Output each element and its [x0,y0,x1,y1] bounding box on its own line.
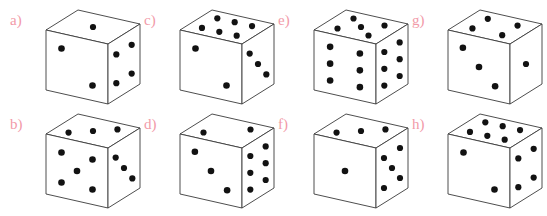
die-a: a) [0,0,134,104]
die-a-left-pip-1 [58,45,65,52]
die-e: e) [268,0,402,104]
die-b-top-pip-2 [90,128,96,134]
die-h-right-pip-4 [531,175,537,181]
die-b-label: b) [10,116,23,133]
die-e-right-pip-1 [381,49,387,55]
die-f-label: f) [278,116,288,133]
die-a-left-pip-2 [89,82,96,89]
die-c-right-pip-1 [247,51,253,57]
die-e-left-pip-5 [327,77,334,84]
die-f-top-pip-2 [358,128,364,134]
die-c-top-pip-4 [232,19,238,25]
die-g-top-pip-4 [514,22,520,28]
die-h-top-pip-3 [484,133,490,139]
die-e-top-pip-2 [350,15,356,21]
die-e-top-pip-5 [381,22,387,28]
die-c: c) [134,0,268,104]
die-g-top-pip-3 [499,32,505,38]
die-h: h) [402,104,536,208]
die-h-top-pip-4 [500,123,506,129]
die-h-label: h) [412,116,425,133]
die-f-right-pip-3 [389,165,395,171]
die-a-top-pip-1 [90,24,96,30]
die-e-right-pip-3 [381,66,387,72]
die-g-top-pip-1 [469,25,475,31]
die-b-right-pip-1 [113,155,119,161]
die-h-cube [434,108,547,216]
die-g-left-pip-1 [460,44,467,51]
die-c-left-pip-2 [223,82,230,89]
die-h-left-pip-1 [460,149,467,156]
die-d: d) [134,104,268,208]
die-d-label: d) [144,116,157,133]
die-g-label: g) [412,12,425,29]
die-d-left-pip-3 [224,187,231,194]
die-d-top-pip-2 [247,126,253,132]
die-h-top-pip-6 [517,127,523,133]
die-e-left-pip-6 [357,84,364,91]
die-c-left-pip-1 [192,45,199,52]
die-f-right-pip-1 [381,155,387,161]
die-e-left-pip-1 [327,44,334,51]
die-d-right-pip-5 [247,187,253,193]
die-b-left-pip-5 [89,186,96,193]
die-h-top-pip-5 [502,137,508,143]
die-g-right-pip-1 [523,61,529,67]
die-f-top-pip-1 [333,129,339,135]
die-b-left-pip-2 [89,156,96,163]
die-e-left-pip-3 [327,60,334,67]
die-h-right-pip-3 [515,184,521,190]
die-g-cube [434,4,547,112]
die-d-right-pip-1 [247,153,253,159]
die-e-top-pip-3 [358,24,364,30]
die-h-top-pip-2 [482,119,488,125]
die-h-left-pip-2 [491,186,498,193]
die-e-left-pip-2 [357,50,364,57]
die-f-top-pip-3 [382,126,388,132]
die-g-left-pip-2 [476,64,483,71]
die-h-right-pip-1 [515,155,521,161]
die-b-left-pip-4 [58,179,65,186]
die-b: b) [0,104,134,208]
die-f-right-pip-4 [381,185,387,191]
die-a-label: a) [10,12,22,29]
die-a-right-pip-1 [113,51,119,57]
die-c-top-pip-6 [249,23,255,29]
die-d-left-pip-1 [192,148,199,155]
die-c-top-pip-3 [216,29,222,35]
die-b-right-pip-2 [121,165,127,171]
die-g: g) [402,0,536,104]
die-f: f) [268,104,402,208]
die-c-top-pip-5 [234,33,240,39]
die-b-top-pip-1 [65,129,71,135]
die-g-top-pip-2 [485,16,491,22]
die-c-top-pip-1 [199,25,205,31]
die-c-top-pip-2 [214,15,220,21]
die-h-top-pip-1 [467,129,473,135]
die-b-left-pip-3 [74,168,81,175]
die-d-right-pip-3 [247,170,253,176]
die-d-top-pip-1 [200,129,206,135]
die-h-right-pip-2 [531,146,537,152]
die-e-right-pip-5 [381,83,387,89]
die-a-right-pip-3 [113,80,119,86]
die-e-top-pip-1 [334,25,340,31]
die-b-left-pip-1 [58,149,65,156]
die-c-label: c) [144,12,156,29]
die-e-label: e) [278,12,290,29]
die-b-top-pip-3 [114,126,120,132]
die-g-left-pip-3 [492,83,499,90]
die-d-left-pip-2 [208,168,215,175]
die-e-top-pip-4 [365,32,371,38]
die-f-left-pip-1 [342,168,349,175]
die-c-right-pip-2 [255,61,261,67]
die-e-left-pip-4 [357,67,364,74]
